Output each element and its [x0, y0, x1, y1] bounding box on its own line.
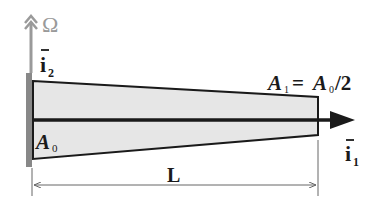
- omega-label: Ω: [42, 12, 58, 37]
- svg-text:/2: /2: [334, 71, 351, 95]
- i1-label: i 1: [345, 140, 359, 169]
- svg-text:1: 1: [284, 84, 289, 95]
- length-label: L: [167, 164, 180, 186]
- tapered-beam-diagram: Ω i 2 A 0 A 1 = A 0 /2 i 1 L: [0, 0, 386, 209]
- svg-text:A: A: [311, 71, 327, 95]
- svg-text:0: 0: [52, 142, 58, 154]
- svg-text:A: A: [266, 71, 282, 95]
- svg-text:1: 1: [353, 155, 359, 169]
- svg-text:i: i: [40, 52, 46, 77]
- svg-text:=: =: [292, 71, 304, 95]
- a1-equation-label: A 1 = A 0 /2: [266, 71, 351, 95]
- svg-text:0: 0: [329, 84, 334, 95]
- svg-text:2: 2: [48, 66, 54, 80]
- rotation-axis-arrow: [25, 16, 37, 73]
- svg-text:A: A: [34, 130, 50, 154]
- i2-label: i 2: [40, 50, 54, 80]
- svg-text:i: i: [345, 141, 351, 166]
- wall-support: [26, 73, 32, 167]
